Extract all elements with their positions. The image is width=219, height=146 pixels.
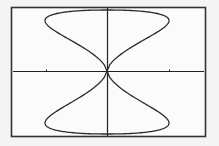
graph-screen	[0, 0, 219, 146]
